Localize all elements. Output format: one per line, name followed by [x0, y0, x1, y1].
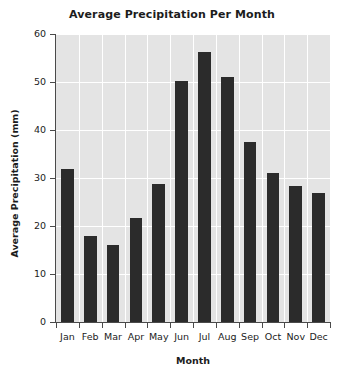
y-tick-60 [50, 34, 55, 35]
chart-title: Average Precipitation Per Month [0, 8, 344, 21]
bar-nov[interactable] [289, 186, 302, 322]
x-tick-label-jun: Jun [170, 332, 193, 342]
y-tick-label-10: 10 [20, 269, 46, 279]
x-tick-10 [284, 323, 285, 328]
y-tick-label-0: 0 [20, 317, 46, 327]
x-tick-label-mar: Mar [102, 332, 125, 342]
x-tick-label-aug: Aug [216, 332, 239, 342]
bar-jun[interactable] [175, 81, 188, 322]
bar-apr[interactable] [130, 218, 143, 322]
x-tick-8 [239, 323, 240, 328]
y-tick-50 [50, 82, 55, 83]
y-tick-40 [50, 130, 55, 131]
x-axis-title: Month [56, 355, 330, 366]
x-tick-4 [147, 323, 148, 328]
bar-feb[interactable] [84, 236, 97, 322]
y-tick-label-40: 40 [20, 125, 46, 135]
bar-jan[interactable] [61, 169, 74, 322]
x-tick-label-oct: Oct [262, 332, 285, 342]
y-tick-30 [50, 178, 55, 179]
plot-area [56, 34, 330, 322]
x-tick-3 [125, 323, 126, 328]
bar-jul[interactable] [198, 52, 211, 322]
bars-layer [56, 34, 330, 322]
x-tick-11 [307, 323, 308, 328]
y-tick-label-50: 50 [20, 77, 46, 87]
x-tick-0 [56, 323, 57, 328]
x-tick-9 [262, 323, 263, 328]
x-tick-label-jan: Jan [56, 332, 79, 342]
x-tick-label-nov: Nov [284, 332, 307, 342]
x-tick-label-dec: Dec [307, 332, 330, 342]
y-tick-0 [50, 322, 55, 323]
x-tick-1 [79, 323, 80, 328]
x-tick-label-sep: Sep [239, 332, 262, 342]
x-tick-2 [102, 323, 103, 328]
y-tick-label-20: 20 [20, 221, 46, 231]
bar-aug[interactable] [221, 77, 234, 322]
bar-sep[interactable] [244, 142, 257, 322]
x-tick-label-jul: Jul [193, 332, 216, 342]
y-tick-20 [50, 226, 55, 227]
bar-dec[interactable] [312, 193, 325, 322]
y-tick-10 [50, 274, 55, 275]
x-tick-6 [193, 323, 194, 328]
bar-mar[interactable] [107, 245, 120, 322]
bar-may[interactable] [152, 184, 165, 322]
x-tick-label-apr: Apr [125, 332, 148, 342]
y-axis-line [55, 34, 56, 323]
x-tick-label-feb: Feb [79, 332, 102, 342]
x-tick-7 [216, 323, 217, 328]
x-tick-label-may: May [147, 332, 170, 342]
x-tick-5 [170, 323, 171, 328]
y-tick-label-30: 30 [20, 173, 46, 183]
y-axis-title: Average Precipitation (mm) [9, 84, 20, 284]
y-tick-label-60: 60 [20, 29, 46, 39]
precipitation-bar-chart: Average Precipitation Per Month Average … [0, 0, 344, 382]
bar-oct[interactable] [267, 173, 280, 322]
x-tick-12 [330, 323, 331, 328]
